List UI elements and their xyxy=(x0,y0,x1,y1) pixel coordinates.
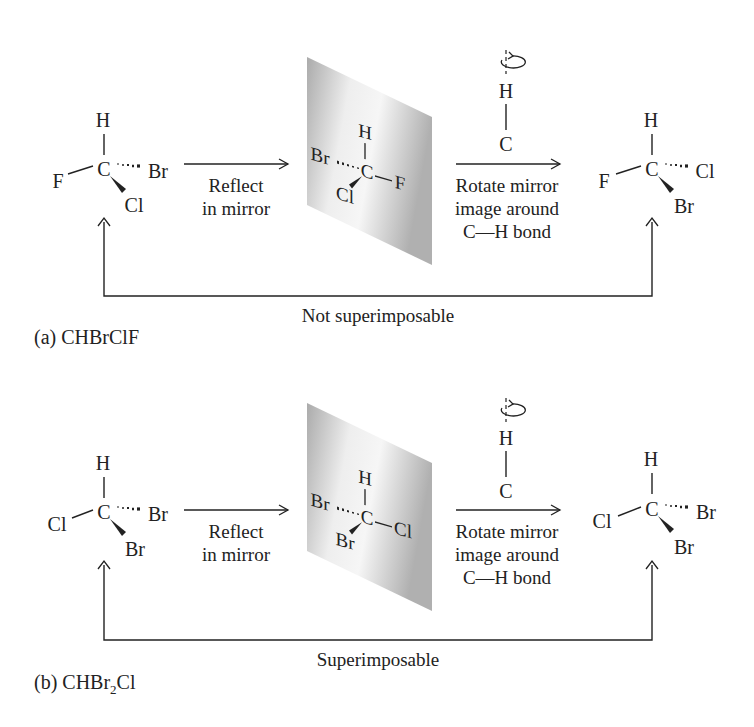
molecule-rotated: H C Cl Br Br xyxy=(593,448,717,558)
diagram-canvas: H C F Br Cl H C xyxy=(0,0,754,727)
panel-caption-b: (b) CHBr2Cl xyxy=(34,671,136,698)
label-line: Reflect xyxy=(186,174,286,197)
reflect-label: Reflect in mirror xyxy=(186,520,286,566)
atom-left: Cl xyxy=(593,510,612,532)
atom-c: C xyxy=(361,505,374,529)
molecule-original: H C F Br Cl xyxy=(52,109,168,216)
label-line: Rotate mirror xyxy=(446,520,568,543)
atom-right: F xyxy=(395,171,406,195)
axis-atom-c: C xyxy=(499,133,512,155)
molecule-original: H C Cl Br Br xyxy=(48,452,169,560)
caption-text: Cl xyxy=(117,671,136,693)
rotate-label: Rotate mirror image around C—H bond xyxy=(446,174,568,243)
rotate-label: Rotate mirror image around C—H bond xyxy=(446,520,568,589)
label-line: Rotate mirror xyxy=(446,174,568,197)
atom-c: C xyxy=(97,158,110,180)
atom-left: Cl xyxy=(48,513,67,535)
panel-b: H C Cl Br Br H C xyxy=(48,398,717,640)
atom-c: C xyxy=(97,501,110,523)
label-line: Reflect xyxy=(186,520,286,543)
caption-text: (b) CHBr xyxy=(34,671,110,693)
panel-caption-a: (a) CHBrClF xyxy=(34,326,139,349)
atom-dash: Cl xyxy=(696,160,715,182)
rotation-arrow-icon xyxy=(501,50,525,74)
atom-h: H xyxy=(358,466,372,491)
axis-atom-h: H xyxy=(499,80,513,102)
atom-wedge: Br xyxy=(125,538,145,560)
label-line: in mirror xyxy=(186,543,286,566)
atom-h: H xyxy=(644,109,658,131)
atom-c: C xyxy=(361,159,374,183)
reflect-label: Reflect in mirror xyxy=(186,174,286,220)
result-label: Superimposable xyxy=(278,649,478,671)
rotation-arrow-icon xyxy=(501,398,525,422)
axis-atom-c: C xyxy=(499,480,512,502)
atom-h: H xyxy=(96,452,110,474)
label-line: C—H bond xyxy=(446,566,568,589)
atom-left: F xyxy=(52,170,63,192)
result-label: Not superimposable xyxy=(278,305,478,327)
atom-dash: Br xyxy=(148,160,168,182)
atom-left: F xyxy=(598,170,609,192)
atom-wedge: Cl xyxy=(125,194,144,216)
atom-h: H xyxy=(96,109,110,131)
atom-c: C xyxy=(645,158,658,180)
panel-a: H C F Br Cl H C xyxy=(52,50,714,296)
atom-h: H xyxy=(644,448,658,470)
label-line: image around xyxy=(446,197,568,220)
label-line: image around xyxy=(446,543,568,566)
molecule-rotated: H C F Cl Br xyxy=(598,109,714,217)
atom-dash: Br xyxy=(148,503,168,525)
label-line: C—H bond xyxy=(446,220,568,243)
axis-atom-h: H xyxy=(499,427,513,449)
atom-c: C xyxy=(645,498,658,520)
atom-dash: Br xyxy=(696,501,716,523)
atom-wedge: Br xyxy=(674,536,694,558)
label-line: in mirror xyxy=(186,197,286,220)
atom-wedge: Br xyxy=(674,195,694,217)
atom-h: H xyxy=(358,120,372,145)
